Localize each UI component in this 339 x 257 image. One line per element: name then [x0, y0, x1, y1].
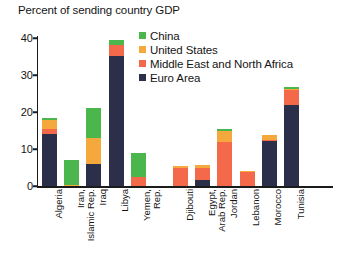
bar-segment: [173, 168, 188, 187]
bar-yemenrep[interactable]: [131, 153, 146, 186]
bar-segment: [86, 108, 101, 138]
bar-segment: [195, 168, 210, 181]
bar-segment: [131, 153, 146, 177]
chart-container: Percent of sending country GDP 010203040…: [0, 0, 339, 257]
bar-segment: [240, 172, 255, 186]
legend-swatch-icon: [139, 60, 146, 67]
bar-segment: [86, 138, 101, 164]
x-tick-label: Morocco: [273, 189, 283, 257]
bar-segment: [131, 177, 146, 186]
legend-item[interactable]: China: [139, 29, 293, 42]
legend-label: Middle East and North Africa: [150, 58, 293, 70]
chart-title: Percent of sending country GDP: [18, 4, 180, 16]
legend-label: United States: [150, 44, 218, 56]
legend-item[interactable]: Euro Area: [139, 71, 293, 84]
legend-swatch-icon: [139, 74, 146, 81]
y-tick-label: 30: [21, 69, 33, 81]
bar-jordan[interactable]: [217, 129, 232, 186]
bar-segment: [109, 45, 124, 55]
y-tick-label: 20: [21, 106, 33, 118]
legend-label: China: [150, 30, 180, 42]
y-tick-label: 40: [21, 32, 33, 44]
bar-tunisia[interactable]: [284, 87, 299, 186]
bar-djibouti[interactable]: [173, 166, 188, 186]
x-tick-label: Egypt, Arab Rep.: [207, 189, 226, 257]
x-axis-line: [37, 186, 333, 188]
x-axis-labels: AlgeriaIran, Islamic Rep.IraqLibyaYemen,…: [37, 189, 333, 257]
bar-egyptarab-rep[interactable]: [195, 165, 210, 186]
bar-segment: [64, 160, 79, 185]
bar-segment: [217, 142, 232, 186]
x-tick-label: Lebanon: [251, 189, 261, 257]
bar-segment: [217, 131, 232, 143]
bar-segment: [42, 134, 57, 186]
x-tick-label: Iraq: [98, 189, 108, 257]
legend-swatch-icon: [139, 32, 146, 39]
y-tick-label: 10: [21, 143, 33, 155]
x-tick-label: Iran, Islamic Rep.: [76, 189, 95, 257]
x-tick-label: Djibouti: [185, 189, 195, 257]
bar-iranislamic-rep[interactable]: [64, 160, 79, 186]
x-tick-label: Libya: [120, 189, 130, 257]
legend-swatch-icon: [139, 46, 146, 53]
legend-label: Euro Area: [150, 72, 200, 84]
bar-segment: [109, 56, 124, 186]
bar-segment: [86, 164, 101, 186]
legend-item[interactable]: United States: [139, 43, 293, 56]
bar-segment: [284, 105, 299, 186]
x-tick-label: Jordan: [229, 189, 239, 257]
bar-segment: [42, 120, 57, 130]
x-tick-label: Tunisia: [296, 189, 306, 257]
x-tick-label: Yemen, Rep.: [142, 189, 161, 257]
bar-segment: [195, 180, 210, 186]
chart-legend: ChinaUnited StatesMiddle East and North …: [139, 29, 293, 84]
bar-segment: [262, 141, 277, 186]
bar-segment: [284, 90, 299, 106]
bar-morocco[interactable]: [262, 135, 277, 186]
x-tick-label: Algeria: [54, 189, 64, 257]
bar-iraq[interactable]: [86, 108, 101, 186]
legend-item[interactable]: Middle East and North Africa: [139, 57, 293, 70]
bar-segment: [64, 185, 79, 186]
bar-algeria[interactable]: [42, 118, 57, 186]
bar-lebanon[interactable]: [240, 171, 255, 186]
bar-libya[interactable]: [109, 40, 124, 187]
